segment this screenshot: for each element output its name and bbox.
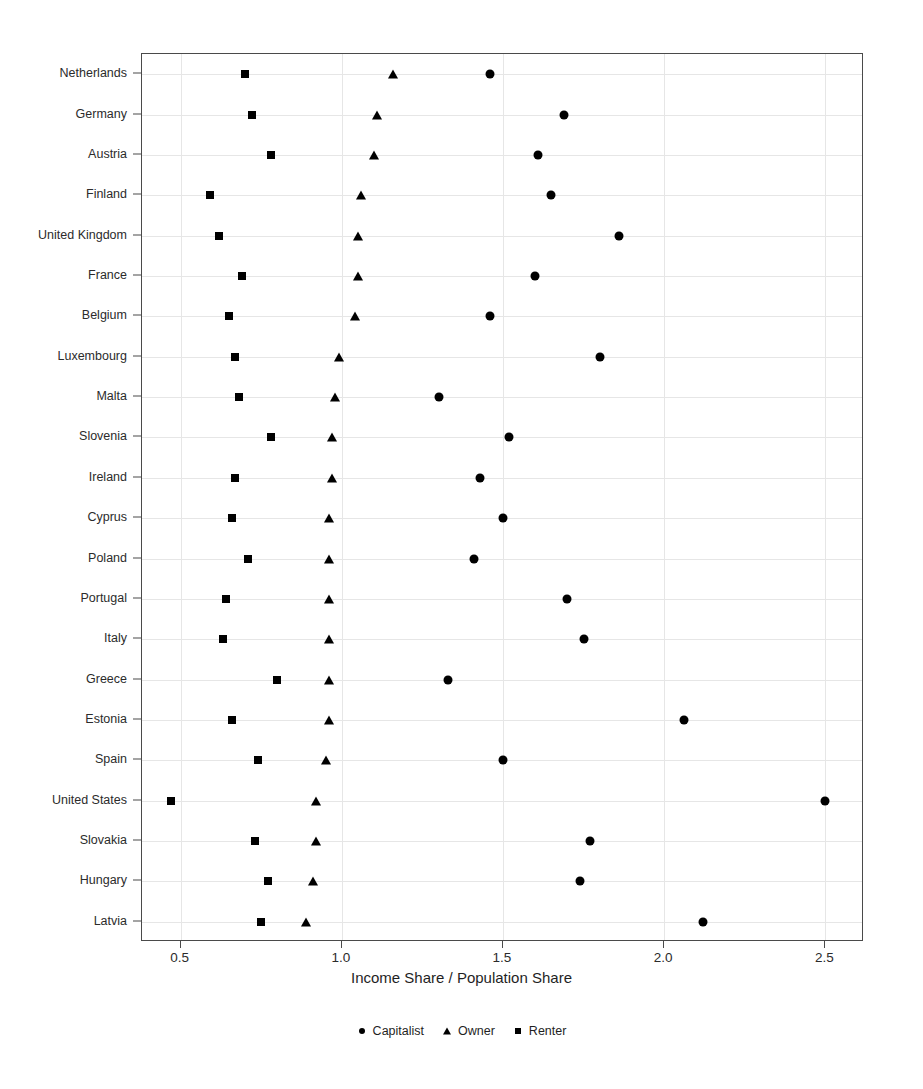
y-tick-mark — [133, 557, 141, 558]
x-tick-mark — [180, 941, 181, 948]
y-tick-mark — [133, 638, 141, 639]
x-tick-label: 1.0 — [331, 950, 350, 965]
data-point-capitalist — [434, 393, 443, 402]
data-point-capitalist — [505, 433, 514, 442]
x-tick-mark — [824, 941, 825, 948]
gridline-horizontal — [142, 74, 862, 75]
data-point-renter — [235, 393, 243, 401]
y-tick-mark — [133, 476, 141, 477]
gridline-horizontal — [142, 437, 862, 438]
y-tick-label: Greece — [86, 672, 127, 686]
y-tick-mark — [133, 355, 141, 356]
data-point-owner — [324, 514, 334, 523]
legend-entry-renter[interactable]: Renter — [513, 1024, 567, 1038]
x-tick-label: 1.5 — [493, 950, 512, 965]
data-point-owner — [324, 675, 334, 684]
x-tick-mark — [663, 941, 664, 948]
data-point-owner — [301, 917, 311, 926]
gridline-vertical — [181, 54, 182, 940]
data-point-capitalist — [615, 231, 624, 240]
y-tick-label: Austria — [88, 147, 127, 161]
data-point-renter — [241, 70, 249, 78]
y-tick-mark — [133, 799, 141, 800]
data-point-owner — [324, 594, 334, 603]
gridline-horizontal — [142, 599, 862, 600]
data-point-owner — [311, 796, 321, 805]
data-point-owner — [372, 110, 382, 119]
y-tick-mark — [133, 194, 141, 195]
data-point-renter — [222, 595, 230, 603]
data-point-renter — [248, 111, 256, 119]
data-point-capitalist — [679, 716, 688, 725]
gridline-vertical — [825, 54, 826, 940]
x-tick-mark — [341, 941, 342, 948]
y-tick-label: Slovenia — [79, 429, 127, 443]
data-point-owner — [350, 312, 360, 321]
legend-label: Owner — [458, 1024, 495, 1038]
data-point-renter — [267, 433, 275, 441]
data-point-renter — [244, 555, 252, 563]
data-point-owner — [334, 352, 344, 361]
legend-entry-capitalist[interactable]: Capitalist — [357, 1024, 424, 1038]
scatter-chart-figure: NetherlandsGermanyAustriaFinlandUnited K… — [0, 0, 923, 1089]
square-marker-icon — [513, 1026, 523, 1036]
gridline-horizontal — [142, 276, 862, 277]
data-point-owner — [388, 70, 398, 79]
x-axis-title: Income Share / Population Share — [0, 969, 923, 986]
data-point-capitalist — [579, 635, 588, 644]
x-tick-label: 2.0 — [654, 950, 673, 965]
y-tick-label: Malta — [96, 389, 127, 403]
y-tick-mark — [133, 275, 141, 276]
plot-panel — [141, 53, 863, 941]
y-tick-label: Italy — [104, 631, 127, 645]
y-tick-label: Luxembourg — [58, 349, 128, 363]
data-point-renter — [254, 756, 262, 764]
data-point-capitalist — [595, 352, 604, 361]
data-point-capitalist — [469, 554, 478, 563]
legend-label: Renter — [529, 1024, 567, 1038]
data-point-renter — [206, 191, 214, 199]
data-point-renter — [273, 676, 281, 684]
data-point-capitalist — [586, 837, 595, 846]
y-tick-mark — [133, 436, 141, 437]
data-point-owner — [321, 756, 331, 765]
y-tick-label: Poland — [88, 551, 127, 565]
data-point-capitalist — [534, 150, 543, 159]
y-tick-label: United States — [52, 793, 127, 807]
y-tick-label: Spain — [95, 752, 127, 766]
legend-entry-owner[interactable]: Owner — [442, 1024, 495, 1038]
gridline-vertical — [664, 54, 665, 940]
legend-label: Capitalist — [373, 1024, 424, 1038]
data-point-renter — [238, 272, 246, 280]
y-tick-label: Ireland — [89, 470, 127, 484]
y-tick-label: Netherlands — [60, 66, 127, 80]
y-tick-label: Portugal — [80, 591, 127, 605]
data-point-renter — [215, 232, 223, 240]
y-tick-label: France — [88, 268, 127, 282]
data-point-owner — [369, 150, 379, 159]
data-point-renter — [228, 716, 236, 724]
data-point-capitalist — [563, 594, 572, 603]
data-point-capitalist — [698, 917, 707, 926]
data-point-owner — [327, 433, 337, 442]
data-point-owner — [324, 716, 334, 725]
gridline-horizontal — [142, 922, 862, 923]
data-point-renter — [231, 474, 239, 482]
data-point-owner — [356, 191, 366, 200]
gridline-horizontal — [142, 720, 862, 721]
gridline-horizontal — [142, 397, 862, 398]
gridline-horizontal — [142, 881, 862, 882]
gridline-horizontal — [142, 639, 862, 640]
gridline-horizontal — [142, 478, 862, 479]
x-tick-label: 2.5 — [815, 950, 834, 965]
data-point-renter — [267, 151, 275, 159]
data-point-renter — [264, 877, 272, 885]
y-tick-mark — [133, 73, 141, 74]
data-point-capitalist — [486, 70, 495, 79]
y-tick-mark — [133, 678, 141, 679]
y-tick-mark — [133, 396, 141, 397]
data-point-owner — [311, 837, 321, 846]
data-point-capitalist — [444, 675, 453, 684]
y-tick-label: Belgium — [82, 308, 127, 322]
data-point-renter — [257, 918, 265, 926]
